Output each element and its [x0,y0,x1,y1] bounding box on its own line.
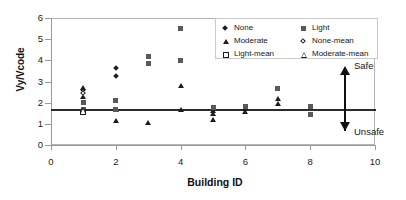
y-tick-label: 1 [19,119,43,129]
open-diamond-icon [300,37,309,46]
legend-label: None-mean [312,37,354,45]
y-tick-mark [45,39,51,40]
legend-item-none-mean[interactable]: None-mean [300,35,368,47]
legend-label: None [234,24,253,32]
x-tick-mark [51,145,52,150]
open-square-icon [222,50,231,59]
y-tick-mark [45,60,51,61]
chart-figure: 0123456 0246810 Vy/Vcode Building ID Non… [0,0,406,200]
y-tick-mark [45,82,51,83]
legend-column-left: NoneModerateLight-mean [222,22,274,61]
legend-column-right: LightNone-meanModerate-mean [300,22,368,61]
y-axis-line [51,18,52,146]
unsafe-label: Unsafe [354,126,384,137]
legend-item-light-mean[interactable]: Light-mean [222,48,274,60]
filled-triangle-icon [222,37,231,46]
x-tick-label: 10 [363,157,387,167]
x-tick-mark [245,145,246,150]
open-triangle-icon [300,50,309,59]
x-tick-label: 2 [104,157,128,167]
legend-item-moderate-mean[interactable]: Moderate-mean [300,48,368,60]
legend-item-light[interactable]: Light [300,22,368,34]
legend-label: Light [312,24,329,32]
y-tick-label: 6 [19,13,43,23]
y-axis-title: Vy/Vcode [15,23,26,117]
legend-label: Moderate-mean [312,50,368,58]
x-tick-label: 6 [233,157,257,167]
filled-square-icon [300,24,309,33]
threshold-line [51,109,376,111]
x-tick-label: 8 [298,157,322,167]
y-tick-mark [45,124,51,125]
x-tick-label: 0 [39,157,63,167]
y-tick-label: 0 [19,140,43,150]
x-tick-mark [116,145,117,150]
x-tick-label: 4 [169,157,193,167]
x-tick-mark [375,145,376,150]
safe-unsafe-annotation: Safe Unsafe [330,60,400,145]
x-tick-mark [310,145,311,150]
legend-label: Light-mean [234,50,274,58]
filled-diamond-icon [222,24,231,33]
y-tick-mark [45,18,51,19]
arrow-down-icon [340,122,350,131]
chart-legend: NoneModerateLight-mean LightNone-meanMod… [215,18,378,59]
safe-label: Safe [354,60,374,71]
x-axis-line [51,145,376,146]
legend-item-none[interactable]: None [222,22,274,34]
legend-label: Moderate [234,37,268,45]
legend-item-moderate[interactable]: Moderate [222,35,274,47]
y-tick-mark [45,103,51,104]
x-axis-title: Building ID [130,176,300,188]
x-tick-mark [181,145,182,150]
